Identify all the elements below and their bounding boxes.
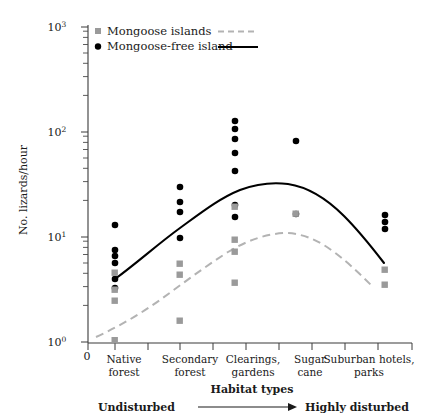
data-point xyxy=(232,136,239,143)
x-category-labels: Native forest Secondary forest Clearings… xyxy=(106,353,414,378)
legend-square-marker-icon xyxy=(95,28,101,34)
y-axis-minor-ticks xyxy=(83,31,88,305)
gradient-arrow-icon xyxy=(198,403,297,411)
y-axis-title: No. lizards/hour xyxy=(17,144,30,235)
svg-text:Suburban hotels,: Suburban hotels, xyxy=(323,353,414,365)
lizard-abundance-figure: 103 102 101 100 0 No. lizards/hour Nativ… xyxy=(0,0,431,420)
y-axis-major-ticks xyxy=(81,27,88,342)
svg-text:cane: cane xyxy=(297,366,322,378)
svg-text:100: 100 xyxy=(48,335,67,349)
data-point xyxy=(382,226,389,233)
legend-circle-marker-icon xyxy=(95,43,101,49)
data-point xyxy=(177,261,183,267)
data-point xyxy=(232,204,238,210)
data-point xyxy=(293,138,300,145)
data-point xyxy=(232,249,238,255)
data-point xyxy=(112,276,119,283)
data-point xyxy=(177,235,184,242)
data-point xyxy=(232,126,239,133)
data-point xyxy=(382,212,389,219)
data-point xyxy=(177,318,183,324)
x-category-label-sugar-cane: Sugar cane xyxy=(294,353,327,378)
series-points-mongoose-free-island xyxy=(112,118,389,292)
svg-text:102: 102 xyxy=(48,125,67,139)
data-point xyxy=(382,267,388,273)
data-point xyxy=(112,222,119,229)
data-point xyxy=(232,150,239,157)
svg-text:gardens: gardens xyxy=(231,366,274,378)
svg-text:Sugar: Sugar xyxy=(294,353,327,365)
data-point xyxy=(112,287,118,293)
svg-text:Secondary: Secondary xyxy=(162,353,218,365)
data-point xyxy=(177,199,184,206)
undisturbed-label: Undisturbed xyxy=(98,401,175,414)
svg-text:Native: Native xyxy=(106,353,141,365)
data-point xyxy=(112,337,118,343)
disturbance-gradient-annotation: Undisturbed Highly disturbed xyxy=(98,401,409,414)
data-point xyxy=(232,214,239,221)
svg-text:103: 103 xyxy=(48,20,67,34)
data-point xyxy=(232,280,238,286)
x-category-label-clearings-gardens: Clearings, gardens xyxy=(226,353,280,378)
origin-label: 0 xyxy=(84,350,91,363)
data-point xyxy=(112,260,119,267)
x-axis-title: Habitat types xyxy=(211,383,294,396)
svg-text:parks: parks xyxy=(354,366,384,378)
highly-disturbed-label: Highly disturbed xyxy=(305,401,409,414)
data-point xyxy=(177,272,183,278)
chart-canvas: 103 102 101 100 0 No. lizards/hour Nativ… xyxy=(0,0,431,420)
data-point xyxy=(232,168,239,175)
data-point xyxy=(112,270,118,276)
chart-legend: Mongoose islands Mongoose-free island xyxy=(95,24,258,53)
data-point xyxy=(232,237,238,243)
svg-text:forest: forest xyxy=(108,366,140,378)
legend-label: Mongoose islands xyxy=(107,24,212,38)
svg-text:101: 101 xyxy=(48,230,67,244)
svg-text:forest: forest xyxy=(174,366,206,378)
data-point xyxy=(112,247,119,254)
data-point xyxy=(177,184,184,191)
legend-item-mongoose-free-island[interactable]: Mongoose-free island xyxy=(95,39,258,53)
data-point xyxy=(382,282,388,288)
data-point xyxy=(293,211,299,217)
x-category-label-suburban-hotels-parks: Suburban hotels, parks xyxy=(323,353,414,378)
svg-text:Clearings,: Clearings, xyxy=(226,353,280,365)
x-axis-ticks xyxy=(88,343,412,350)
data-point xyxy=(232,118,239,125)
fit-curve-mongoose-free-island xyxy=(115,183,384,279)
data-point xyxy=(112,253,119,260)
y-tick-labels: 103 102 101 100 0 xyxy=(48,20,91,363)
data-point xyxy=(382,219,389,226)
legend-label: Mongoose-free island xyxy=(107,39,233,53)
data-point xyxy=(112,298,118,304)
series-points-mongoose-islands xyxy=(112,204,388,344)
data-point xyxy=(177,209,184,216)
x-category-label-secondary-forest: Secondary forest xyxy=(162,353,218,378)
x-category-label-native-forest: Native forest xyxy=(106,353,141,378)
legend-item-mongoose-islands[interactable]: Mongoose islands xyxy=(95,24,258,38)
